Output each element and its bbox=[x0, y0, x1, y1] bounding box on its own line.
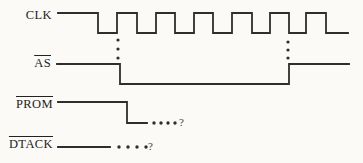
signal-label-as: AS bbox=[0, 55, 51, 71]
waveform-clk bbox=[58, 13, 348, 33]
waveform-as bbox=[57, 64, 349, 84]
clock-edge-alignment-dot bbox=[286, 48, 289, 51]
clock-edge-alignment-dot bbox=[116, 47, 119, 50]
dtack-continuation-dot bbox=[126, 145, 129, 148]
waveform-prom bbox=[58, 102, 147, 123]
dtack-continuation-dot bbox=[135, 145, 138, 148]
clock-edge-alignment-dot bbox=[286, 56, 289, 59]
prom-continuation-dot bbox=[152, 121, 155, 124]
signal-label-dtack: DTACK bbox=[0, 136, 53, 152]
waveform-svg bbox=[0, 0, 363, 163]
signal-label-clk: CLK bbox=[0, 7, 52, 23]
prom-uncertainty-question-mark: ? bbox=[179, 115, 184, 130]
prom-continuation-dot bbox=[166, 121, 169, 124]
clock-edge-alignment-dot bbox=[116, 38, 119, 41]
prom-continuation-dot bbox=[159, 121, 162, 124]
timing-diagram: CLK AS PROM DTACK ? ? bbox=[0, 0, 363, 163]
clock-edge-alignment-dot bbox=[286, 40, 289, 43]
dtack-continuation-dot bbox=[117, 145, 120, 148]
dtack-uncertainty-question-mark: ? bbox=[148, 139, 153, 154]
clock-edge-alignment-dot bbox=[116, 56, 119, 59]
signal-label-prom: PROM bbox=[0, 96, 53, 112]
prom-continuation-dot bbox=[173, 121, 176, 124]
